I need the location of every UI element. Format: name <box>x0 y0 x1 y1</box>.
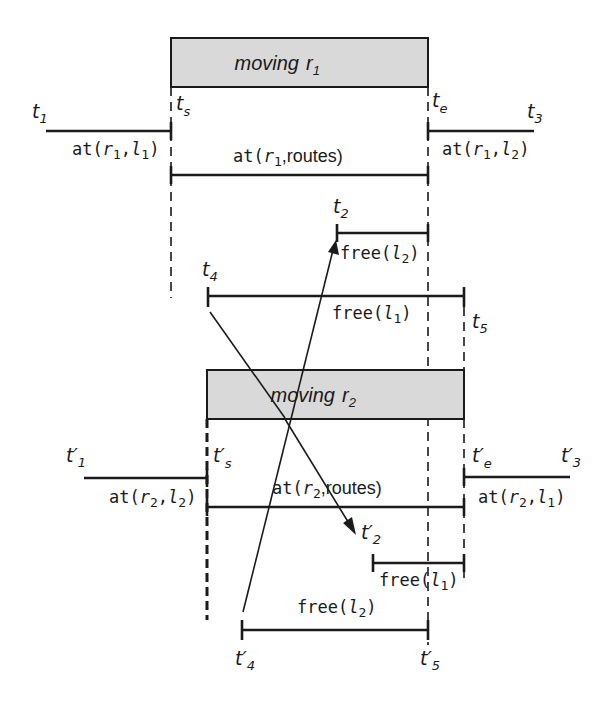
t3-label: t3 <box>527 100 543 126</box>
svg-text:free(l2): free(l2) <box>297 597 377 620</box>
interval-at-r2-l2: at(r2,l2) <box>84 469 207 510</box>
tsp-label: t′s <box>213 444 232 471</box>
svg-text:at(r2,l2): at(r2,l2) <box>109 487 196 510</box>
t2p-label: t′2 <box>361 521 381 547</box>
arrowhead-t2p-icon <box>343 517 356 535</box>
interval-free-l1-upper: t4 free(l1) t5 <box>202 258 488 336</box>
interval-free-l2-upper: t2 free(l2) <box>333 195 428 266</box>
interval-free-l2-lower: free(l2) t′4 t′5 <box>235 597 440 673</box>
t4-label: t4 <box>202 258 218 284</box>
svg-text:at(r1,l2): at(r1,l2) <box>442 139 529 162</box>
svg-text:at(r1,routes): at(r1,routes) <box>233 146 343 169</box>
svg-text:moving: moving <box>235 52 299 74</box>
svg-text:free(l2): free(l2) <box>340 243 420 266</box>
svg-text:at(r1,l1): at(r1,l1) <box>72 139 159 162</box>
moving-r1-box: moving r1 <box>171 38 428 87</box>
svg-text:moving: moving <box>271 384 335 406</box>
temporal-diagram: moving r1 t1 ts te t3 at(r1,l1) at(r1,ro… <box>0 0 612 714</box>
t1p-label: t′1 <box>66 444 86 470</box>
t3p-label: t′3 <box>561 444 581 470</box>
t4p-to-t2-arrow <box>243 250 333 612</box>
svg-text:at(r2,routes): at(r2,routes) <box>272 478 382 501</box>
svg-text:free(l1): free(l1) <box>379 570 459 593</box>
svg-text:free(l1): free(l1) <box>332 303 412 326</box>
tep-label: t′e <box>472 444 492 471</box>
interval-at-r1-l2: at(r1,l2) <box>428 122 534 162</box>
r2-start-to-t2p-arrow <box>285 419 350 525</box>
interval-at-r1-l1: at(r1,l1) <box>46 122 171 162</box>
t2-label: t2 <box>333 195 349 221</box>
interval-at-r2-routes: at(r2,routes) <box>207 478 464 516</box>
arrowhead-t2-icon <box>328 240 339 255</box>
interval-free-l1-lower: t′2 free(l1) <box>361 521 464 593</box>
te-label: te <box>432 89 447 116</box>
svg-text:at(r2,l1): at(r2,l1) <box>478 487 565 510</box>
t5-label: t5 <box>472 310 488 336</box>
interval-at-r2-l1: at(r2,l1) <box>464 468 570 510</box>
t4p-label: t′4 <box>235 647 255 673</box>
moving-r2-box: moving r2 <box>207 370 464 419</box>
ts-label: ts <box>176 92 190 119</box>
t1-label: t1 <box>32 100 48 126</box>
interval-at-r1-routes: at(r1,routes) <box>171 146 428 184</box>
t5p-label: t′5 <box>420 647 440 673</box>
